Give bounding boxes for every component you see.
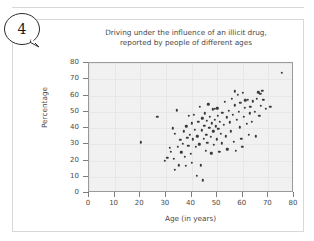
x-axis-tick	[88, 192, 89, 197]
x-axis-tick	[139, 192, 140, 197]
scatter-point	[252, 100, 254, 102]
scatter-point	[177, 164, 179, 166]
gridline-horizontal	[89, 79, 292, 80]
y-axis-tick	[83, 95, 88, 96]
gridline-horizontal	[89, 96, 292, 97]
scatter-point	[205, 133, 207, 135]
x-axis-tick	[267, 192, 268, 197]
scatter-point	[156, 115, 158, 117]
scatter-point	[254, 135, 256, 137]
scatter-point	[244, 106, 246, 108]
chart-title: Driving under the influence of an illici…	[78, 28, 294, 48]
scatter-point	[203, 137, 205, 139]
scatter-point	[262, 98, 264, 100]
gridline-vertical	[268, 63, 269, 191]
x-axis-tick	[293, 192, 294, 197]
plot-area	[88, 62, 293, 192]
scatter-point	[233, 90, 235, 92]
x-axis-tick-label: 80	[278, 199, 308, 207]
scatter-point	[224, 101, 226, 103]
scatter-point	[183, 130, 185, 132]
x-axis-tick	[242, 192, 243, 197]
gridline-vertical	[243, 63, 244, 191]
gridline-vertical	[89, 63, 90, 191]
scatter-point	[194, 145, 196, 147]
scatter-point	[226, 148, 228, 150]
scatter-point	[201, 117, 203, 119]
scatter-point	[193, 114, 195, 116]
y-axis-tick-label: 20	[39, 156, 79, 164]
scatter-point	[255, 98, 257, 100]
x-axis-tick	[191, 192, 192, 197]
scatter-point	[209, 115, 211, 117]
scatter-point	[201, 129, 203, 131]
scatter-point	[179, 138, 181, 140]
y-axis-tick-label: 30	[39, 139, 79, 147]
x-axis-tick	[114, 192, 115, 197]
scatter-point	[218, 120, 220, 122]
y-axis-tick-label: 0	[39, 188, 79, 196]
scatter-point	[170, 151, 172, 153]
scatter-point	[203, 124, 205, 126]
scatter-point	[212, 130, 214, 132]
gridline-vertical	[166, 63, 167, 191]
scatter-point	[204, 150, 206, 152]
scatter-point	[200, 164, 202, 166]
scatter-point	[231, 98, 233, 100]
gridline-horizontal	[89, 177, 292, 178]
scatter-point	[210, 152, 212, 154]
y-axis-tick	[83, 78, 88, 79]
x-axis-label: Age (in years)	[88, 214, 293, 223]
gridline-horizontal	[89, 128, 292, 129]
scatter-point	[174, 168, 176, 170]
scatter-point	[186, 137, 188, 139]
scatter-point	[249, 106, 251, 108]
y-axis-tick	[83, 111, 88, 112]
gridline-vertical	[115, 63, 116, 191]
y-axis-tick-label: 80	[39, 58, 79, 66]
scatter-point	[234, 104, 236, 106]
scatter-point	[169, 146, 171, 148]
scatter-point	[198, 106, 200, 108]
gridline-vertical	[140, 63, 141, 191]
y-axis-tick	[83, 127, 88, 128]
y-axis-tick-label: 60	[39, 91, 79, 99]
scatter-point	[173, 132, 175, 134]
y-axis-tick-label: 10	[39, 172, 79, 180]
scatter-point	[261, 90, 263, 92]
scatter-point	[197, 120, 199, 122]
gridline-horizontal	[89, 144, 292, 145]
scatter-chart: Driving under the influence of an illici…	[0, 0, 314, 241]
worksheet-page: 4 Driving under the influence of an illi…	[0, 0, 314, 241]
y-axis-tick	[83, 62, 88, 63]
scatter-point	[229, 121, 231, 123]
x-axis-tick	[216, 192, 217, 197]
chart-title-line-2: reported by people of different ages	[78, 38, 294, 48]
scatter-point	[184, 155, 186, 157]
scatter-point	[226, 116, 228, 118]
scatter-point	[188, 115, 190, 117]
scatter-point	[251, 120, 253, 122]
scatter-point	[265, 107, 267, 109]
scatter-point	[232, 141, 234, 143]
scatter-point	[235, 119, 237, 121]
chart-title-line-1: Driving under the influence of an illici…	[78, 28, 294, 38]
x-axis-tick	[165, 192, 166, 197]
scatter-point	[239, 102, 241, 104]
scatter-point	[269, 106, 271, 108]
scatter-point	[247, 98, 249, 100]
scatter-point	[258, 115, 260, 117]
scatter-point	[211, 122, 213, 124]
scatter-point	[210, 136, 212, 138]
y-axis-tick	[83, 176, 88, 177]
scatter-point	[245, 123, 247, 125]
y-axis-tick	[83, 160, 88, 161]
y-axis-tick	[83, 143, 88, 144]
gridline-horizontal	[89, 112, 292, 113]
gridline-horizontal	[89, 63, 292, 64]
scatter-point	[185, 164, 187, 166]
scatter-point	[231, 114, 233, 116]
scatter-point	[230, 130, 232, 132]
scatter-point	[176, 145, 178, 147]
scatter-point	[259, 105, 261, 107]
